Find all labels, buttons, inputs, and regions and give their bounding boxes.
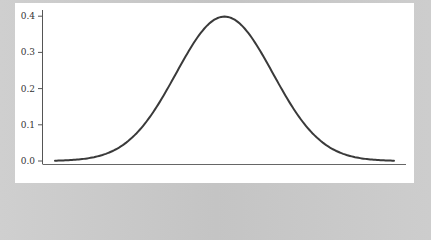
axes [43, 10, 407, 165]
pdf-curve [55, 17, 394, 161]
y-tick-label: 0.1 [21, 120, 35, 130]
y-ticks: 0.00.10.20.30.4 [21, 11, 43, 166]
y-tick-label: 0.4 [21, 11, 36, 21]
y-tick-label: 0.2 [21, 84, 35, 94]
y-tick-label: 0.3 [21, 47, 36, 57]
normal-distribution-chart: 0.00.10.20.30.4 [0, 0, 431, 191]
y-tick-label: 0.0 [21, 156, 36, 166]
